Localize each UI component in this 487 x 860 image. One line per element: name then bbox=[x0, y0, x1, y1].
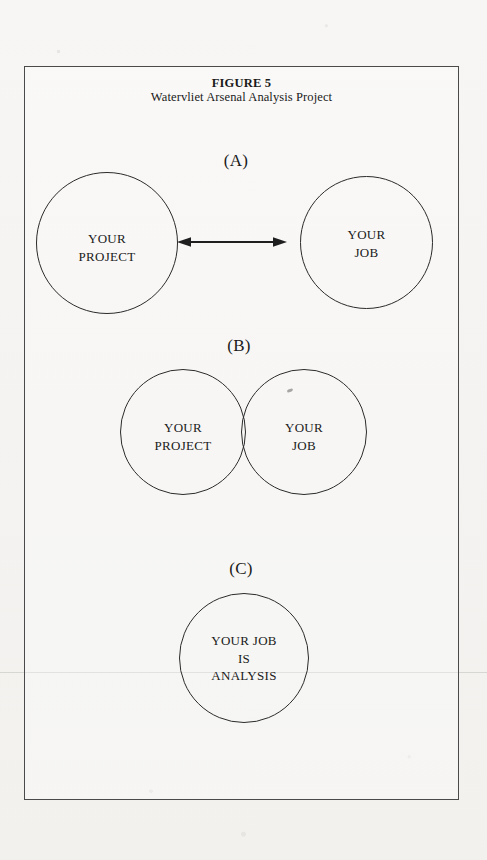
panel-b-circle-your-project-label: YOUR PROJECT bbox=[121, 419, 245, 454]
panel-label-c: (C) bbox=[201, 559, 281, 579]
figure-title: FIGURE 5 bbox=[25, 76, 458, 91]
double-headed-arrow-icon bbox=[177, 231, 287, 253]
panel-a-circle-your-project-label: YOUR PROJECT bbox=[37, 230, 177, 265]
panel-c-circle-label: YOUR JOB IS ANALYSIS bbox=[180, 632, 308, 685]
panel-b-circle-your-job-label: YOUR JOB bbox=[242, 419, 366, 454]
panel-b-circle-your-project: YOUR PROJECT bbox=[120, 369, 246, 495]
panel-a-circle-your-job: YOUR JOB bbox=[300, 176, 433, 309]
panel-label-a: (A) bbox=[196, 151, 276, 171]
panel-a-circle-your-job-label: YOUR JOB bbox=[301, 226, 432, 261]
panel-c-circle-your-job-is-analysis: YOUR JOB IS ANALYSIS bbox=[179, 593, 309, 723]
figure-subtitle: Watervliet Arsenal Analysis Project bbox=[25, 90, 458, 105]
figure-frame: FIGURE 5 Watervliet Arsenal Analysis Pro… bbox=[24, 66, 459, 800]
panel-a-circle-your-project: YOUR PROJECT bbox=[36, 172, 178, 314]
panel-b-circle-your-job: YOUR JOB bbox=[241, 369, 367, 495]
panel-label-b: (B) bbox=[199, 336, 279, 356]
